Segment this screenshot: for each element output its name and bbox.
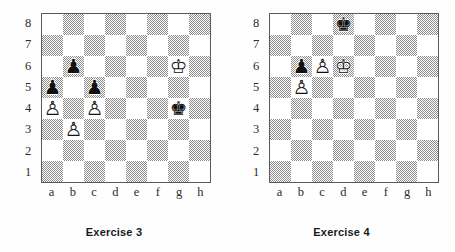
black-pawn-on-c5[interactable]: ♟ [84, 77, 105, 98]
square-d2[interactable] [105, 140, 126, 161]
square-e1[interactable] [126, 161, 147, 182]
square-f2[interactable] [147, 140, 168, 161]
square-c4[interactable] [312, 98, 333, 119]
square-d6[interactable] [105, 56, 126, 77]
square-c7[interactable] [84, 35, 105, 56]
white-pawn-on-c4[interactable]: ♙ [84, 98, 105, 119]
square-b8[interactable] [63, 14, 84, 35]
square-h8[interactable] [189, 14, 210, 35]
square-g2[interactable] [168, 140, 189, 161]
white-pawn-on-b5[interactable]: ♙ [291, 77, 312, 98]
square-c5[interactable]: ♟ [84, 77, 105, 98]
square-g1[interactable] [168, 161, 189, 182]
square-f6[interactable] [147, 56, 168, 77]
black-pawn-on-b6[interactable]: ♟ [291, 56, 312, 77]
square-h4[interactable] [417, 98, 438, 119]
square-b2[interactable] [63, 140, 84, 161]
square-b3[interactable]: ♙ [63, 119, 84, 140]
square-h7[interactable] [417, 35, 438, 56]
white-pawn-on-a4[interactable]: ♙ [42, 98, 63, 119]
white-pawn-on-b3[interactable]: ♙ [63, 119, 84, 140]
square-h2[interactable] [417, 140, 438, 161]
square-h3[interactable] [417, 119, 438, 140]
square-h1[interactable] [417, 161, 438, 182]
square-f2[interactable] [375, 140, 396, 161]
square-a8[interactable] [42, 14, 63, 35]
square-f6[interactable] [375, 56, 396, 77]
square-d6[interactable]: ♔ [333, 56, 354, 77]
square-a4[interactable]: ♙ [42, 98, 63, 119]
square-f7[interactable] [147, 35, 168, 56]
square-c3[interactable] [84, 119, 105, 140]
square-e1[interactable] [354, 161, 375, 182]
square-a7[interactable] [42, 35, 63, 56]
square-b6[interactable]: ♟ [291, 56, 312, 77]
white-king-on-g6[interactable]: ♔ [168, 56, 189, 77]
square-f7[interactable] [375, 35, 396, 56]
square-a4[interactable] [270, 98, 291, 119]
square-f5[interactable] [375, 77, 396, 98]
square-c1[interactable] [84, 161, 105, 182]
square-g5[interactable] [168, 77, 189, 98]
square-h7[interactable] [189, 35, 210, 56]
square-e4[interactable] [354, 98, 375, 119]
square-b4[interactable] [63, 98, 84, 119]
square-f8[interactable] [375, 14, 396, 35]
square-e3[interactable] [126, 119, 147, 140]
square-c8[interactable] [312, 14, 333, 35]
square-c2[interactable] [312, 140, 333, 161]
chessboard[interactable]: ♚♟♙♔♙ [269, 13, 439, 183]
square-d8[interactable] [105, 14, 126, 35]
square-h6[interactable] [417, 56, 438, 77]
square-f5[interactable] [147, 77, 168, 98]
square-a8[interactable] [270, 14, 291, 35]
square-h4[interactable] [189, 98, 210, 119]
square-g4[interactable] [396, 98, 417, 119]
square-a3[interactable] [42, 119, 63, 140]
square-d5[interactable] [333, 77, 354, 98]
square-a2[interactable] [270, 140, 291, 161]
square-a6[interactable] [270, 56, 291, 77]
square-b1[interactable] [63, 161, 84, 182]
square-h2[interactable] [189, 140, 210, 161]
square-c8[interactable] [84, 14, 105, 35]
square-c6[interactable]: ♙ [312, 56, 333, 77]
square-d1[interactable] [105, 161, 126, 182]
square-c1[interactable] [312, 161, 333, 182]
square-c7[interactable] [312, 35, 333, 56]
black-king-on-d8[interactable]: ♚ [333, 14, 354, 35]
square-h1[interactable] [189, 161, 210, 182]
black-pawn-on-a5[interactable]: ♟ [42, 77, 63, 98]
square-g6[interactable]: ♔ [168, 56, 189, 77]
square-g1[interactable] [396, 161, 417, 182]
square-e5[interactable] [354, 77, 375, 98]
square-b3[interactable] [291, 119, 312, 140]
square-d7[interactable] [333, 35, 354, 56]
square-h8[interactable] [417, 14, 438, 35]
square-e8[interactable] [126, 14, 147, 35]
square-h3[interactable] [189, 119, 210, 140]
square-a2[interactable] [42, 140, 63, 161]
square-g8[interactable] [396, 14, 417, 35]
square-f1[interactable] [375, 161, 396, 182]
square-d3[interactable] [105, 119, 126, 140]
square-d7[interactable] [105, 35, 126, 56]
square-b1[interactable] [291, 161, 312, 182]
square-d3[interactable] [333, 119, 354, 140]
square-g3[interactable] [396, 119, 417, 140]
square-h5[interactable] [417, 77, 438, 98]
square-e7[interactable] [354, 35, 375, 56]
square-c3[interactable] [312, 119, 333, 140]
square-e3[interactable] [354, 119, 375, 140]
square-g4[interactable]: ♚ [168, 98, 189, 119]
white-pawn-on-c6[interactable]: ♙ [312, 56, 333, 77]
square-a6[interactable] [42, 56, 63, 77]
square-b4[interactable] [291, 98, 312, 119]
square-e5[interactable] [126, 77, 147, 98]
square-f4[interactable] [147, 98, 168, 119]
square-b5[interactable]: ♙ [291, 77, 312, 98]
square-a1[interactable] [270, 161, 291, 182]
square-b6[interactable]: ♟ [63, 56, 84, 77]
square-d2[interactable] [333, 140, 354, 161]
square-b8[interactable] [291, 14, 312, 35]
